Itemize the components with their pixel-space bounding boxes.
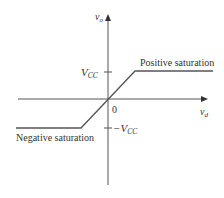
op-amp-transfer-diagram: vo vd 0 VCC −VCC Positive saturation Neg… (0, 0, 224, 198)
negative-saturation-label: Negative saturation (16, 132, 94, 143)
origin-label: 0 (112, 104, 117, 115)
x-axis-arrow-icon (201, 96, 208, 102)
y-axis-arrow-icon (105, 14, 111, 21)
y-axis-label: vo (95, 11, 103, 24)
x-axis-label: vd (200, 106, 208, 119)
positive-saturation-label: Positive saturation (140, 57, 214, 68)
vcc-label: VCC (81, 66, 99, 80)
neg-vcc-label: −VCC (113, 122, 138, 136)
